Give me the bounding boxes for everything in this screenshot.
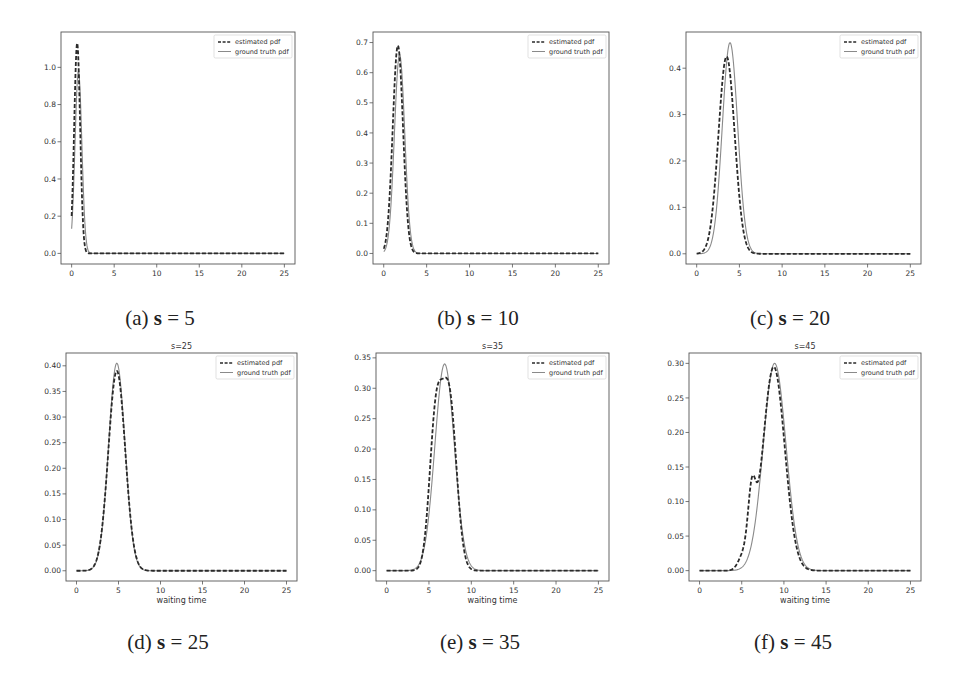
caption-d: (d) s = 25 [127, 630, 208, 655]
caption-a: (a) s = 5 [125, 306, 195, 331]
caption-e: (e) s = 35 [440, 630, 520, 655]
subplot-title: s=45 [794, 342, 815, 351]
caption-eq: = [167, 306, 179, 330]
caption-label: (e) [440, 630, 463, 654]
x-tick-label: 20 [863, 586, 873, 595]
y-tick-label: 0.25 [667, 394, 684, 403]
caption-eq: = [171, 630, 183, 654]
caption-var: s [469, 630, 477, 654]
x-tick-label: 5 [739, 586, 744, 595]
caption-f: (f) s = 45 [754, 630, 832, 655]
caption-eq: = [794, 630, 806, 654]
caption-c: (c) s = 20 [750, 306, 830, 331]
y-tick-label: 0.30 [667, 359, 684, 368]
caption-var: s [780, 630, 788, 654]
caption-label: (f) [754, 630, 775, 654]
legend: estimated pdfground truth pdf [840, 356, 918, 379]
caption-var: s [467, 306, 475, 330]
caption-label: (c) [750, 306, 773, 330]
legend-ground-truth-label: ground truth pdf [861, 369, 915, 377]
legend-estimated-label: estimated pdf [861, 359, 907, 367]
caption-value: 35 [499, 630, 520, 654]
caption-label: (d) [127, 630, 152, 654]
caption-value: 10 [498, 306, 519, 330]
estimated-pdf-line [700, 367, 911, 571]
x-axis-label: waiting time [780, 596, 830, 605]
x-tick-label: 10 [779, 586, 789, 595]
axes-frame [689, 353, 921, 581]
y-tick-label: 0.00 [667, 566, 684, 575]
caption-value: 25 [188, 630, 209, 654]
x-tick-label: 25 [906, 586, 916, 595]
plot-f: 05101520250.000.050.100.150.200.250.30s=… [0, 0, 956, 688]
caption-eq: = [481, 306, 493, 330]
caption-value: 45 [811, 630, 832, 654]
caption-var: s [779, 306, 787, 330]
plot-lines [700, 363, 911, 570]
y-tick-label: 0.20 [667, 428, 684, 437]
caption-var: s [157, 630, 165, 654]
ground-truth-pdf-line [700, 363, 911, 570]
y-tick-label: 0.05 [667, 532, 684, 541]
caption-var: s [154, 306, 162, 330]
caption-value: 5 [184, 306, 195, 330]
caption-b: (b) s = 10 [437, 306, 518, 331]
x-tick-label: 15 [821, 586, 831, 595]
y-tick-label: 0.10 [667, 497, 684, 506]
caption-label: (a) [125, 306, 148, 330]
caption-label: (b) [437, 306, 462, 330]
x-tick-label: 0 [697, 586, 702, 595]
caption-eq: = [792, 306, 804, 330]
y-tick-label: 0.15 [667, 463, 684, 472]
caption-eq: = [482, 630, 494, 654]
caption-value: 20 [809, 306, 830, 330]
